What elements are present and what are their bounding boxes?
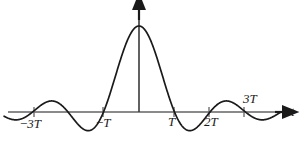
- T-value: T: [168, 114, 175, 129]
- two-T-value: 2T: [204, 114, 218, 129]
- tick-label-T: T: [168, 115, 175, 128]
- tick-label-2T: 2T: [204, 115, 218, 128]
- minus-T-value: T: [103, 115, 110, 130]
- plot-canvas: [0, 0, 302, 144]
- minus-3T-value: 3T: [27, 116, 41, 131]
- sinc-curve-path: [4, 26, 281, 131]
- sinc-plot-figure: −3T −T T 2T 3T t: [0, 0, 302, 144]
- tick-label-minus-3T: −3T: [20, 117, 41, 130]
- tick-label-minus-T: −T: [96, 116, 111, 129]
- tick-label-3T: 3T: [243, 92, 257, 105]
- horizontal-axis-label: t: [291, 106, 294, 118]
- three-T-value: 3T: [243, 91, 257, 106]
